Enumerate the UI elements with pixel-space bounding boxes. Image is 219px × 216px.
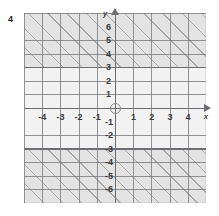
plot-frame [24,13,206,203]
problem-number: 4 [8,14,13,24]
coordinate-plane: y x -4 -3 -2 -1 1 2 3 4 6 5 4 3 2 1 -1 -… [24,13,206,203]
